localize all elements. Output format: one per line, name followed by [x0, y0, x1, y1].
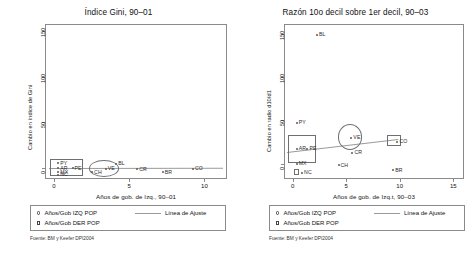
- y-tick-label: 100: [279, 74, 285, 83]
- legend-label-fit: Línea de Ajuste: [165, 210, 206, 216]
- fit-line-icon: [374, 213, 400, 214]
- data-point: CH: [91, 169, 102, 175]
- data-point: VE: [350, 134, 360, 140]
- spacer-icon: [374, 220, 400, 221]
- legend-entry-izq: Años/Gob IZQ POP: [37, 210, 97, 216]
- x-tick-mark: [453, 179, 454, 182]
- x-tick-mark: [400, 179, 401, 182]
- figure-sheet: Índice Gini, 90–01 PYARPEMXNCBLVECHCRBRC…: [0, 0, 474, 257]
- legend-entry-izq: Años/Gob IZQ POP: [276, 210, 336, 216]
- x-axis-label-gini: Años de gob. de Izq., 90–01: [45, 193, 227, 200]
- data-point: NC: [57, 171, 68, 177]
- square-marker-icon: [276, 221, 279, 224]
- data-point: CO: [396, 138, 407, 144]
- source-note-gini: Fuente: BM y Keefer DPI2004: [30, 236, 94, 241]
- legend-entry-fit: Línea de Ajuste: [135, 210, 206, 216]
- legend-label-fit: Línea de Ajuste: [404, 210, 445, 216]
- data-point: BL: [316, 31, 326, 37]
- y-axis-label-gini: Cambio en índice de Gini: [27, 85, 33, 150]
- x-axis-label-d10d1: Años de gob. de Izq.t, 90–03: [284, 193, 464, 200]
- x-tick-mark: [54, 179, 55, 182]
- x-tick-label: 5: [128, 183, 131, 189]
- x-tick-label: 10: [396, 183, 403, 189]
- y-tick-label: 0: [40, 171, 46, 174]
- x-tick-label: 0: [291, 183, 294, 189]
- legend-entry-fit-spacer: [374, 220, 404, 221]
- legend-gini: Años/Gob IZQ POP Años/Gob DER POP Línea …: [30, 205, 226, 231]
- data-point: CR: [351, 149, 362, 155]
- legend-label-izq: Años/Gob IZQ POP: [44, 210, 97, 216]
- y-tick-label: 150: [40, 28, 46, 37]
- panel-d10d1: Razón 10o decil sobre 1er decil, 90–03 B…: [237, 0, 474, 257]
- data-point: CR: [136, 166, 147, 172]
- x-tick-mark: [346, 179, 347, 182]
- spacer-icon: [135, 220, 161, 221]
- data-point: BL: [115, 160, 125, 166]
- data-point: BR: [392, 167, 402, 173]
- x-tick-label: 5: [344, 183, 347, 189]
- legend-entry-der: Años/Gob DER POP: [37, 220, 100, 226]
- y-tick-label: 50: [279, 120, 285, 126]
- x-tick-mark: [129, 179, 130, 182]
- x-tick-label: 15: [450, 183, 457, 189]
- data-point: AR: [296, 145, 306, 151]
- legend-entry-fit-spacer: [135, 220, 165, 221]
- data-point: PE: [306, 145, 316, 151]
- circle-marker-icon: [37, 211, 40, 214]
- legend-entry-der: Años/Gob DER POP: [276, 220, 339, 226]
- data-point: MX: [296, 160, 307, 166]
- data-point: CO: [192, 165, 203, 171]
- data-point: CH: [338, 162, 349, 168]
- legend-label-der: Años/Gob DER POP: [283, 220, 338, 226]
- data-point: NC: [301, 169, 312, 175]
- data-point: BR: [162, 169, 172, 175]
- plot-area-gini: PYARPEMXNCBLVECHCRBRCO: [45, 24, 227, 179]
- square-marker-icon: [37, 221, 40, 224]
- source-note-d10d1: Fuente: BM y Keefer DPI2004: [269, 236, 333, 241]
- x-tick-mark: [204, 179, 205, 182]
- data-point: PE: [72, 165, 82, 171]
- highlight-rect: [294, 169, 300, 175]
- circle-marker-icon: [276, 211, 279, 214]
- chart-title-gini: Índice Gini, 90–01: [0, 8, 237, 17]
- y-tick-mark: [281, 164, 284, 165]
- fit-line-icon: [135, 213, 161, 214]
- y-tick-mark: [42, 168, 45, 169]
- plot-area-d10d1: BLPYARPEMXNCVECRCHBRCO: [284, 24, 464, 179]
- y-axis-label-d10d1: Cambio en radio d10/d1: [266, 90, 272, 152]
- y-tick-label: 100: [40, 74, 46, 83]
- legend-label-der: Años/Gob DER POP: [44, 220, 99, 226]
- legend-label-izq: Años/Gob IZQ POP: [283, 210, 336, 216]
- legend-d10d1: Años/Gob IZQ POP Años/Gob DER POP Línea …: [269, 205, 465, 231]
- data-point: VE: [105, 165, 115, 171]
- x-tick-label: 0: [52, 183, 55, 189]
- y-tick-label: 150: [279, 31, 285, 40]
- legend-entry-fit: Línea de Ajuste: [374, 210, 445, 216]
- y-tick-label: 50: [40, 122, 46, 128]
- chart-title-d10d1: Razón 10o decil sobre 1er decil, 90–03: [237, 8, 474, 17]
- y-tick-label: 0: [279, 167, 285, 170]
- data-point: PY: [296, 119, 306, 125]
- panel-gini: Índice Gini, 90–01 PYARPEMXNCBLVECHCRBRC…: [0, 0, 237, 257]
- x-tick-label: 10: [201, 183, 208, 189]
- x-tick-mark: [293, 179, 294, 182]
